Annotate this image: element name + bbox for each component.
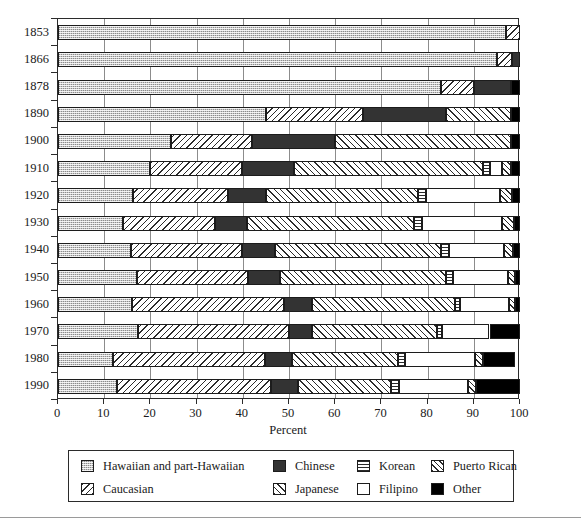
y-tick-label-1960: 1960 [3, 298, 49, 310]
bar-segment-1890-hawaiian [58, 107, 266, 122]
legend: Hawaiian and part-HawaiianChineseKoreanP… [68, 450, 514, 502]
bar-segment-1990-korean [391, 379, 399, 394]
bar-row-1910 [58, 161, 518, 176]
legend-label-puertorican: Puerto Rican [453, 459, 517, 474]
legend-item-puertorican[interactable]: Puerto Rican [431, 455, 517, 477]
bar-row-1920 [58, 188, 518, 203]
bar-segment-1920-japanese [266, 188, 418, 203]
x-tick-label-0: 0 [37, 406, 77, 421]
bar-row-1930 [58, 216, 518, 231]
x-tick-label-30: 30 [176, 406, 216, 421]
bar-segment-1853-caucasian [506, 25, 520, 40]
x-tick-mark-10 [103, 399, 104, 404]
bar-segment-1940-caucasian [131, 243, 242, 258]
x-tick-mark-40 [242, 399, 243, 404]
bar-segment-1990-puertorican [468, 379, 476, 394]
x-tick-label-50: 50 [268, 406, 308, 421]
bar-row-1940 [58, 243, 518, 258]
legend-label-other: Other [453, 482, 481, 497]
gridline-40 [243, 19, 244, 398]
bar-segment-1990-japanese [298, 379, 390, 394]
bar-segment-1990-caucasian [117, 379, 270, 394]
bar-row-1890 [58, 107, 518, 122]
bar-segment-1930-other [514, 216, 520, 231]
bar-segment-1940-other [513, 243, 520, 258]
y-tick-mark-11 [51, 317, 57, 318]
x-tick-mark-70 [380, 399, 381, 404]
legend-row-0: Hawaiian and part-HawaiianChineseKoreanP… [69, 455, 513, 477]
legend-swatch-japanese-icon [273, 483, 286, 495]
legend-item-filipino[interactable]: Filipino [357, 478, 418, 500]
bar-row-1878 [58, 80, 518, 95]
legend-item-korean[interactable]: Korean [357, 455, 415, 477]
bar-segment-1980-caucasian [113, 352, 265, 367]
x-tick-mark-20 [149, 399, 150, 404]
bar-segment-1960-hawaiian [58, 297, 132, 312]
bar-segment-1940-japanese [275, 243, 441, 258]
legend-item-japanese[interactable]: Japanese [273, 478, 339, 500]
bar-segment-1920-other [512, 188, 520, 203]
legend-label-japanese: Japanese [295, 482, 339, 497]
legend-item-other[interactable]: Other [431, 478, 481, 500]
bar-segment-1930-filipino [422, 216, 503, 231]
y-tick-mark-0 [51, 18, 57, 19]
y-tick-label-1890: 1890 [3, 107, 49, 119]
bar-segment-1990-hawaiian [58, 379, 117, 394]
bar-segment-1950-filipino [453, 270, 508, 285]
x-tick-label-20: 20 [129, 406, 169, 421]
bar-segment-1980-other [483, 352, 515, 367]
legend-label-korean: Korean [379, 459, 415, 474]
bar-segment-1980-korean [398, 352, 405, 367]
y-tick-mark-1 [51, 45, 57, 46]
y-tick-mark-13 [51, 372, 57, 373]
bar-segment-1900-hawaiian [58, 134, 171, 149]
bar-row-1853 [58, 25, 518, 40]
bar-segment-1950-puertorican [508, 270, 515, 285]
bar-segment-1866-chinese [512, 52, 520, 67]
legend-item-hawaiian[interactable]: Hawaiian and part-Hawaiian [81, 455, 244, 477]
y-tick-mark-10 [51, 290, 57, 291]
y-tick-label-1940: 1940 [3, 243, 49, 255]
bar-segment-1853-hawaiian [58, 25, 506, 40]
figure-bottom-rule [0, 517, 581, 518]
bar-segment-1990-filipino [399, 379, 468, 394]
legend-item-caucasian[interactable]: Caucasian [81, 478, 154, 500]
legend-item-chinese[interactable]: Chinese [273, 455, 335, 477]
x-tick-label-70: 70 [360, 406, 400, 421]
y-tick-mark-6 [51, 181, 57, 182]
bar-segment-1920-chinese [228, 188, 266, 203]
x-tick-mark-80 [427, 399, 428, 404]
gridline-50 [289, 19, 290, 398]
gridline-70 [381, 19, 382, 398]
y-tick-label-1950: 1950 [3, 271, 49, 283]
bar-segment-1910-puertorican [502, 161, 511, 176]
legend-label-filipino: Filipino [379, 482, 418, 497]
bar-segment-1878-chinese [474, 80, 511, 95]
x-tick-label-80: 80 [407, 406, 447, 421]
x-tick-mark-50 [288, 399, 289, 404]
bar-segment-1950-chinese [248, 270, 279, 285]
gridline-20 [150, 19, 151, 398]
bar-segment-1980-puertorican [475, 352, 483, 367]
bar-segment-1940-chinese [242, 243, 275, 258]
x-axis-title: Percent [57, 423, 519, 438]
bar-segment-1950-hawaiian [58, 270, 137, 285]
bar-segment-1910-japanese [294, 161, 483, 176]
bar-segment-1866-caucasian [497, 52, 512, 67]
x-tick-mark-30 [196, 399, 197, 404]
bar-row-1970 [58, 324, 518, 339]
x-tick-label-10: 10 [83, 406, 123, 421]
y-tick-label-1878: 1878 [3, 80, 49, 92]
bar-segment-1900-japanese [335, 134, 511, 149]
bar-segment-1980-chinese [265, 352, 292, 367]
bar-row-1900 [58, 134, 518, 149]
bar-segment-1890-chinese [363, 107, 446, 122]
legend-label-caucasian: Caucasian [103, 482, 154, 497]
y-tick-mark-8 [51, 236, 57, 237]
bar-row-1960 [58, 297, 518, 312]
gridline-80 [428, 19, 429, 398]
bar-segment-1920-filipino [426, 188, 500, 203]
bar-segment-1960-caucasian [132, 297, 284, 312]
plot-frame [57, 18, 519, 399]
bar-segment-1910-hawaiian [58, 161, 150, 176]
